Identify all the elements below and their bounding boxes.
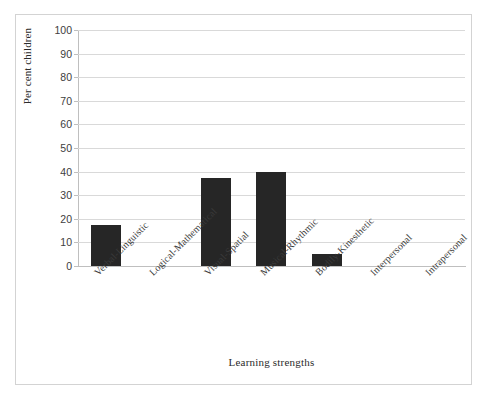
- y-axis-tick-label: 100: [44, 24, 72, 36]
- y-axis-tick-label: 50: [44, 142, 72, 154]
- y-axis-title: Per cent children: [21, 6, 37, 126]
- bar-slot: [410, 30, 465, 266]
- y-axis-tick-label: 70: [44, 95, 72, 107]
- y-axis-tick-label: 20: [44, 213, 72, 225]
- y-axis-tick: [74, 266, 78, 267]
- bar-slot: [244, 30, 299, 266]
- y-axis-tick-label: 90: [44, 48, 72, 60]
- chart-screenshot: Per cent children 0102030405060708090100…: [0, 0, 490, 403]
- y-axis-tick-label: 30: [44, 189, 72, 201]
- x-axis-category-labels: Verbal-LinguisticLogical-MathematicalVis…: [78, 268, 465, 348]
- y-axis-tick-label: 60: [44, 118, 72, 130]
- y-axis-tick-labels: 0102030405060708090100: [46, 30, 76, 266]
- y-axis-tick-label: 0: [44, 260, 72, 272]
- y-axis-tick-label: 40: [44, 166, 72, 178]
- y-axis-tick-label: 80: [44, 71, 72, 83]
- y-axis-tick-label: 10: [44, 236, 72, 248]
- x-axis-title: Learning strengths: [78, 356, 465, 368]
- bar-slot: [78, 30, 133, 266]
